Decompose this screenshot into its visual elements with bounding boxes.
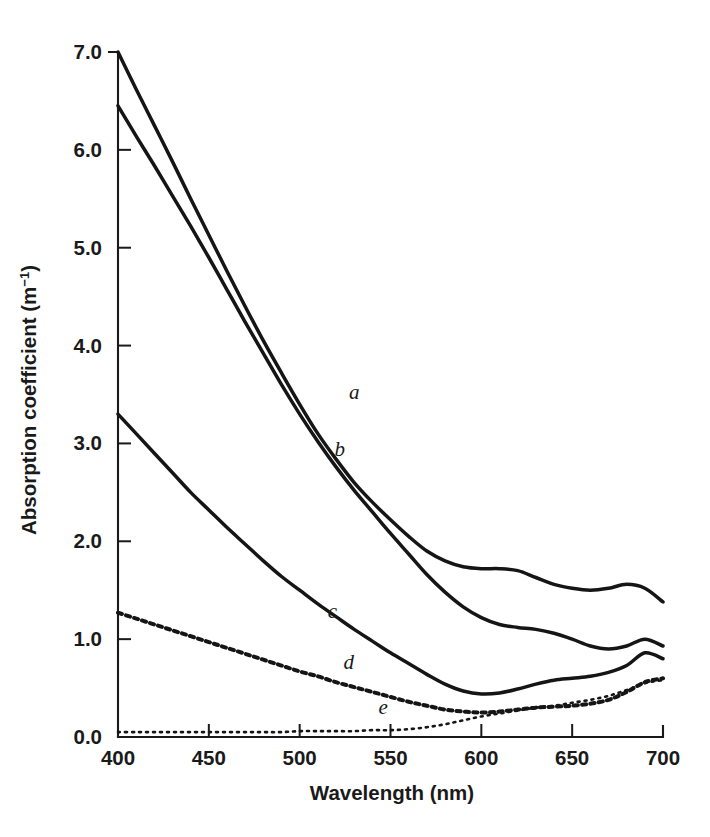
y-axis-line [109,52,118,737]
curve-label-e: e [379,695,388,719]
y-tick-label-6.0: 6.0 [74,138,103,161]
x-tick-label-700: 700 [646,746,680,769]
y-tick-label-2.0: 2.0 [74,529,103,552]
x-axis-tick-labels: 400450500550600650700 [101,746,680,769]
curve-a [118,52,663,602]
y-axis-title-superscript: −1 [17,272,32,287]
x-tick-label-550: 550 [373,746,407,769]
figure-container: 0.01.02.03.04.05.06.07.0 400450500550600… [0,0,710,837]
y-tick-label-1.0: 1.0 [74,627,103,650]
y-tick-label-4.0: 4.0 [74,334,103,357]
curve-b [118,106,663,649]
x-tick-label-600: 600 [464,746,498,769]
y-axis-title: Absorption coefficient (m−1) [17,265,40,535]
curve-label-c: c [328,599,338,623]
y-tick-label-0.0: 0.0 [74,725,103,748]
x-tick-label-450: 450 [192,746,226,769]
svg-text:Absorption coefficient (m−1): Absorption coefficient (m−1) [17,265,40,535]
y-tick-label-3.0: 3.0 [74,431,103,454]
y-axis-ticks [118,150,131,639]
y-axis-title-tail: ) [17,265,40,272]
x-tick-label-400: 400 [101,746,135,769]
curve-label-a: a [349,380,360,404]
data-curves [118,52,663,732]
y-axis-title-text: Absorption coefficient (m [17,287,40,535]
curve-c [118,414,663,694]
y-tick-label-5.0: 5.0 [74,236,103,259]
curve-label-b: b [334,437,345,461]
x-axis-title: Wavelength (nm) [310,781,474,804]
curve-labels: abcde [328,380,388,718]
x-tick-label-650: 650 [555,746,589,769]
absorption-spectra-chart: 0.01.02.03.04.05.06.07.0 400450500550600… [0,0,710,837]
x-tick-label-500: 500 [283,746,317,769]
x-axis-ticks [118,724,572,737]
curve-d [118,613,663,713]
y-axis-tick-labels: 0.01.02.03.04.05.06.07.0 [74,40,103,748]
curve-label-d: d [343,650,354,674]
y-tick-label-7.0: 7.0 [74,40,103,63]
axes [109,52,663,737]
